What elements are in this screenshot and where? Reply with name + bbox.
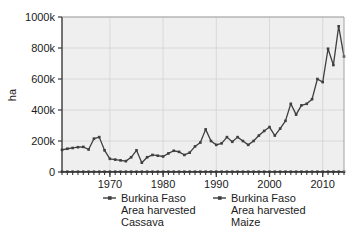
data-point: [199, 141, 202, 144]
data-point: [125, 160, 128, 163]
data-point: [263, 130, 266, 133]
data-point: [156, 154, 159, 157]
data-point: [300, 104, 303, 107]
x-tick-label: 1970: [98, 178, 122, 190]
data-point: [130, 156, 133, 159]
data-point: [316, 78, 319, 81]
data-point: [109, 158, 112, 161]
legend-label-line-3: Cassava: [121, 216, 165, 228]
data-point: [178, 151, 181, 154]
data-point: [231, 140, 234, 143]
data-point: [114, 158, 117, 161]
x-tick-label: 2010: [310, 178, 334, 190]
data-point: [305, 103, 308, 106]
y-tick-label: 1000k: [25, 11, 55, 23]
data-point: [172, 149, 175, 152]
data-point: [284, 120, 287, 123]
data-point: [295, 113, 298, 116]
data-point: [188, 151, 191, 154]
data-point: [146, 156, 149, 159]
line-chart: 0200k400k600k800k1000k 19701980199020002…: [0, 0, 356, 235]
data-point: [274, 134, 277, 137]
data-point: [337, 25, 340, 28]
data-point: [327, 47, 330, 50]
data-point: [66, 147, 69, 150]
data-point: [204, 128, 207, 131]
data-point: [226, 136, 229, 139]
data-point: [242, 140, 245, 143]
legend-marker-dot: [108, 196, 112, 200]
y-axis-title: ha: [6, 88, 18, 101]
data-point: [210, 140, 213, 143]
data-point: [167, 152, 170, 155]
data-point: [332, 64, 335, 67]
data-point: [141, 161, 144, 164]
data-point: [71, 147, 74, 150]
legend-label-line-3: Maize: [231, 216, 260, 228]
y-tick-label: 600k: [31, 73, 55, 85]
data-point: [268, 126, 271, 129]
data-point: [151, 154, 154, 157]
data-point: [194, 145, 197, 148]
data-point: [220, 142, 223, 145]
legend-label-line-1: Burkina Faso: [231, 192, 296, 204]
data-point: [321, 81, 324, 84]
y-tick-label: 200k: [31, 135, 55, 147]
chart-figure: 0200k400k600k800k1000k 19701980199020002…: [0, 0, 356, 235]
data-point: [93, 137, 96, 140]
x-tick-label: 1990: [204, 178, 228, 190]
legend-label-line-1: Burkina Faso: [121, 192, 186, 204]
data-point: [258, 134, 261, 137]
x-tick-label: 2000: [257, 178, 281, 190]
data-point: [289, 103, 292, 106]
data-point: [279, 127, 282, 130]
data-point: [119, 159, 122, 162]
data-point: [247, 144, 250, 147]
data-point: [77, 146, 80, 149]
y-tick-label: 400k: [31, 104, 55, 116]
y-tick-label: 800k: [31, 42, 55, 54]
data-point: [87, 148, 90, 151]
data-point: [215, 144, 218, 147]
y-tick-label: 0: [49, 166, 55, 178]
data-point: [236, 136, 239, 139]
legend-marker-dot: [218, 196, 222, 200]
legend-label-line-2: Area harvested: [121, 204, 196, 216]
data-point: [162, 155, 165, 158]
x-tick-label: 1980: [151, 178, 175, 190]
legend-label-line-2: Area harvested: [231, 204, 306, 216]
data-point: [82, 146, 85, 149]
data-point: [311, 98, 314, 101]
data-point: [183, 154, 186, 157]
data-point: [103, 149, 106, 152]
data-point: [98, 136, 101, 139]
data-point: [135, 149, 138, 152]
data-point: [252, 140, 255, 143]
